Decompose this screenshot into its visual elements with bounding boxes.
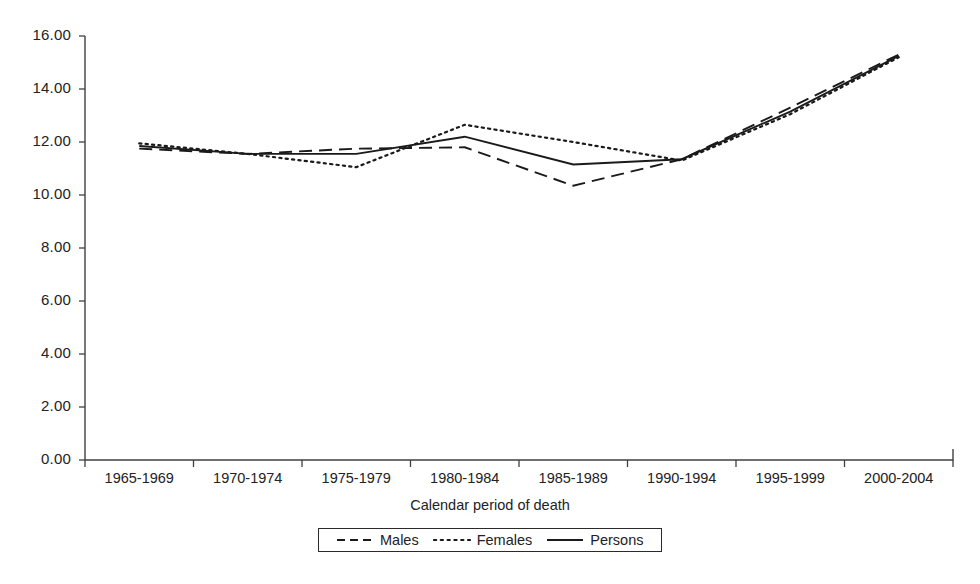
legend-label: Persons	[590, 532, 643, 548]
y-tick-marks	[79, 36, 85, 460]
x-tick-label: 2000-2004	[845, 470, 954, 486]
chart-axes	[79, 36, 953, 467]
legend-entry-males: Males	[336, 532, 419, 548]
chart-series-group	[139, 55, 899, 186]
y-tick-label: 0.00	[0, 450, 71, 467]
x-tick-label: 1985-1989	[519, 470, 628, 486]
legend-swatch-solid-icon	[546, 534, 584, 546]
legend-entry-females: Females	[433, 532, 533, 548]
series-line-males	[139, 55, 899, 186]
x-tick-label: 1995-1999	[736, 470, 845, 486]
y-tick-label: 2.00	[0, 397, 71, 414]
legend-swatch-dashed-icon	[336, 534, 374, 546]
x-tick-label: 1975-1979	[302, 470, 411, 486]
y-tick-label: 4.00	[0, 344, 71, 361]
chart-figure: 0.002.004.006.008.0010.0012.0014.0016.00…	[0, 0, 980, 584]
y-tick-label: 12.00	[0, 132, 71, 149]
legend-entry-persons: Persons	[546, 532, 643, 548]
y-tick-label: 6.00	[0, 291, 71, 308]
y-tick-label: 8.00	[0, 238, 71, 255]
x-tick-label: 1990-1994	[628, 470, 737, 486]
legend-label: Females	[477, 532, 533, 548]
x-tick-marks	[85, 460, 953, 467]
legend-swatch-dotted-icon	[433, 534, 471, 546]
chart-legend: MalesFemalesPersons	[318, 528, 662, 552]
y-tick-label: 10.00	[0, 185, 71, 202]
y-tick-label: 16.00	[0, 26, 71, 43]
x-tick-label: 1980-1984	[411, 470, 520, 486]
y-tick-label: 14.00	[0, 79, 71, 96]
legend-label: Males	[380, 532, 419, 548]
x-tick-label: 1965-1969	[85, 470, 194, 486]
x-axis-title: Calendar period of death	[0, 497, 980, 513]
x-tick-label: 1970-1974	[194, 470, 303, 486]
axis-lines	[85, 36, 953, 460]
